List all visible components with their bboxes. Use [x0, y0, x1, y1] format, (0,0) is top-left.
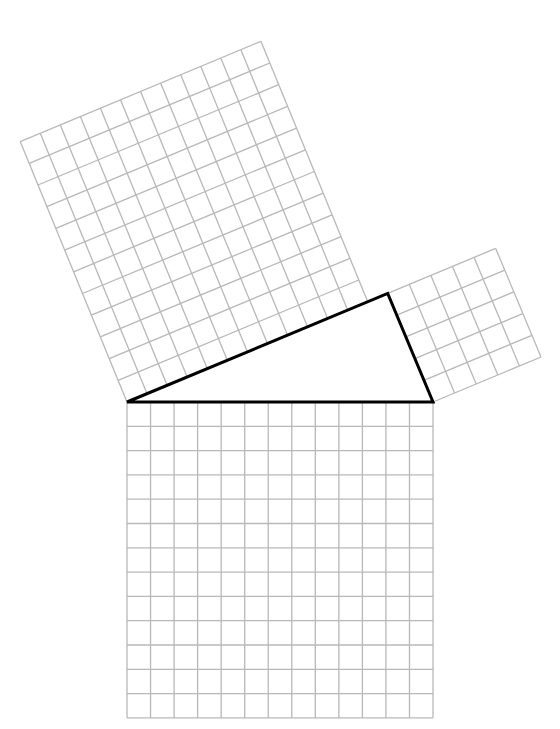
square-on-hypotenuse — [127, 402, 433, 718]
square-on-long-leg — [20, 41, 368, 402]
triangle-outline — [127, 293, 433, 402]
pythagorean-diagram — [0, 0, 560, 729]
right-triangle — [127, 293, 433, 402]
square-on-short-leg — [388, 248, 541, 402]
